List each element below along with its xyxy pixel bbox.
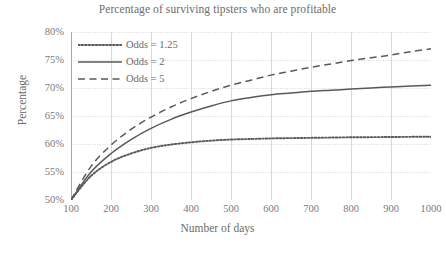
chart-title: Percentage of surviving tipsters who are… xyxy=(0,3,435,15)
x-axis-tick-labels: 1002003004005006007008009001000 xyxy=(0,204,435,220)
y-tick-label: 60% xyxy=(28,139,64,150)
y-tick-label: 65% xyxy=(28,111,64,122)
x-tick-label: 100 xyxy=(49,204,93,215)
y-tick-label: 80% xyxy=(28,27,64,38)
legend-item-label: Odds = 2 xyxy=(122,56,165,67)
x-tick-label: 900 xyxy=(369,204,413,215)
x-tick-label: 600 xyxy=(249,204,293,215)
y-tick-label: 55% xyxy=(28,167,64,178)
legend-item-label: Odds = 1.25 xyxy=(122,39,178,50)
legend-line-swatch xyxy=(78,56,122,68)
x-tick-label: 1000 xyxy=(409,204,446,215)
x-tick-label: 500 xyxy=(209,204,253,215)
data-series-line xyxy=(71,137,431,200)
x-axis-title: Number of days xyxy=(0,222,435,234)
x-tick-label: 700 xyxy=(289,204,333,215)
legend-line-swatch xyxy=(78,39,122,51)
x-tick-label: 400 xyxy=(169,204,213,215)
chart-legend: Odds = 1.25Odds = 2Odds = 5 xyxy=(78,36,196,87)
y-tick-label: 70% xyxy=(28,83,64,94)
x-tick-label: 800 xyxy=(329,204,373,215)
legend-item[interactable]: Odds = 5 xyxy=(78,70,196,87)
x-tick-label: 200 xyxy=(89,204,133,215)
legend-line-swatch xyxy=(78,73,122,85)
x-tick-label: 300 xyxy=(129,204,173,215)
data-series-line xyxy=(71,85,431,200)
y-tick-label: 75% xyxy=(28,55,64,66)
legend-item-label: Odds = 5 xyxy=(122,73,165,84)
legend-item[interactable]: Odds = 1.25 xyxy=(78,36,196,53)
legend-item[interactable]: Odds = 2 xyxy=(78,53,196,70)
y-axis-title: Percentage xyxy=(16,50,28,150)
